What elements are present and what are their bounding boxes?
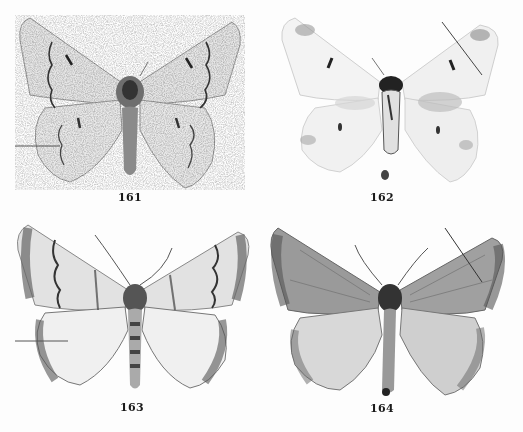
figure-label-164: 164 [370,402,394,415]
figure-label-162: 162 [370,191,394,204]
specimen-plate: 161 162 163 164 [0,0,523,432]
moth-illustration-162 [260,0,523,200]
moth-illustration-163 [0,210,260,410]
moth-illustration-161 [0,0,260,200]
moth-specimen-162 [260,0,523,200]
figure-label-161: 161 [118,191,142,204]
moth-specimen-163 [0,210,260,410]
moth-illustration-164 [260,210,523,410]
moth-specimen-164 [260,210,523,410]
figure-label-163: 163 [120,401,144,414]
moth-specimen-161 [0,0,260,200]
